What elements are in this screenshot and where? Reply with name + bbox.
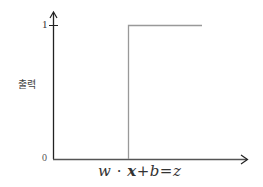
y-tick-label-0: 0: [42, 152, 47, 163]
x-axis-label: w · x+b=z: [98, 162, 181, 180]
x-label-x: x: [127, 162, 136, 180]
x-label-dot: ·: [117, 162, 122, 180]
step-function-line: [129, 26, 203, 160]
x-label-rest: +b=z: [137, 162, 182, 180]
chart-canvas: [0, 0, 263, 187]
y-axis-label: 출력: [18, 76, 36, 91]
x-label-w: w: [98, 162, 111, 180]
y-tick-label-1: 1: [42, 18, 48, 30]
